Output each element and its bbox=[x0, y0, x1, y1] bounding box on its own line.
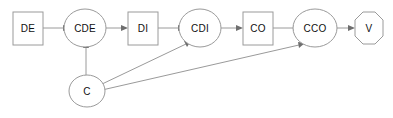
arrowhead-cdi-co bbox=[236, 25, 243, 31]
edge-c-to-cco bbox=[102, 42, 305, 90]
node-layer: DE CDE DI CDI CO CCO bbox=[13, 9, 383, 107]
edge-cdi-to-co bbox=[221, 25, 243, 31]
node-cco[interactable]: CCO bbox=[293, 9, 337, 47]
graph-svg: DE CDE DI CDI CO CCO bbox=[0, 0, 393, 118]
node-de-label: DE bbox=[21, 23, 35, 34]
node-c[interactable]: C bbox=[69, 75, 105, 107]
node-de[interactable]: DE bbox=[13, 12, 43, 45]
node-cde-label: CDE bbox=[74, 23, 96, 34]
node-c-label: C bbox=[83, 86, 90, 97]
node-cde[interactable]: CDE bbox=[64, 9, 106, 47]
node-v[interactable]: V bbox=[355, 12, 383, 44]
edge-cde-to-di bbox=[106, 25, 128, 31]
edge-c-to-cdi bbox=[100, 41, 191, 85]
edge-line-c-cco bbox=[102, 45, 299, 90]
node-cdi[interactable]: CDI bbox=[179, 9, 221, 47]
node-co-label: CO bbox=[250, 23, 265, 34]
node-co[interactable]: CO bbox=[243, 12, 273, 45]
arrowhead-cco-v bbox=[348, 25, 355, 31]
node-di-label: DI bbox=[138, 23, 148, 34]
node-v-label: V bbox=[366, 23, 373, 34]
edge-cco-to-v bbox=[337, 25, 355, 31]
node-cco-label: CCO bbox=[304, 23, 327, 34]
node-cdi-label: CDI bbox=[191, 23, 209, 34]
node-di[interactable]: DI bbox=[128, 12, 158, 45]
arrowhead-cde-di bbox=[121, 25, 128, 31]
diagram-canvas: DE CDE DI CDI CO CCO bbox=[0, 0, 393, 118]
edge-line-c-cdi bbox=[100, 44, 186, 85]
